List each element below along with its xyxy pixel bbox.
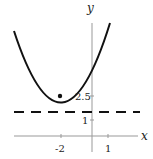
point-dot <box>58 94 62 98</box>
chart: y x -2 1 1 2.5 <box>0 0 153 159</box>
y-axis-label: y <box>86 1 94 15</box>
x-tick-label-neg2: -2 <box>55 143 65 154</box>
parabola-curve <box>14 23 110 103</box>
y-tick-label-2-5: 2.5 <box>75 91 91 102</box>
y-tick-label-1: 1 <box>82 115 88 126</box>
x-axis-label: x <box>141 129 148 143</box>
x-tick-label-1: 1 <box>105 143 111 154</box>
